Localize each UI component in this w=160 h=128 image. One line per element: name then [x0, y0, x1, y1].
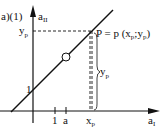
brace-label: yp	[100, 65, 110, 80]
y-projection-label: yp	[19, 24, 29, 39]
open-circle-marker	[62, 53, 70, 61]
x-axis-label: aI	[148, 114, 156, 128]
y-axis-label: aII	[38, 10, 48, 24]
y-axis-arrow-icon	[30, 5, 36, 17]
x-projection-label: xp	[86, 114, 96, 128]
panel-label: a)(1)	[1, 10, 23, 23]
point-equation: P = p (xp;yp)	[96, 27, 150, 41]
diagram-canvas: a)(1) aII yp 1 1 a xp aI yp P = p (xp;yp…	[0, 0, 160, 128]
linear-function-line	[11, 10, 113, 112]
x-tick-label-a: a	[63, 114, 68, 126]
y-tick-label-1: 1	[26, 83, 32, 95]
x-tick-label-1: 1	[52, 114, 58, 126]
